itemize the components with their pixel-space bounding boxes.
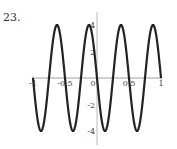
sinusoid-chart: -1-0.500.5142-2-4 bbox=[0, 0, 177, 149]
y-tick-label: -2 bbox=[87, 101, 95, 110]
x-tick-label: 1 bbox=[158, 79, 163, 88]
y-tick-label: -4 bbox=[87, 127, 95, 136]
x-tick-label: 0 bbox=[90, 79, 95, 88]
